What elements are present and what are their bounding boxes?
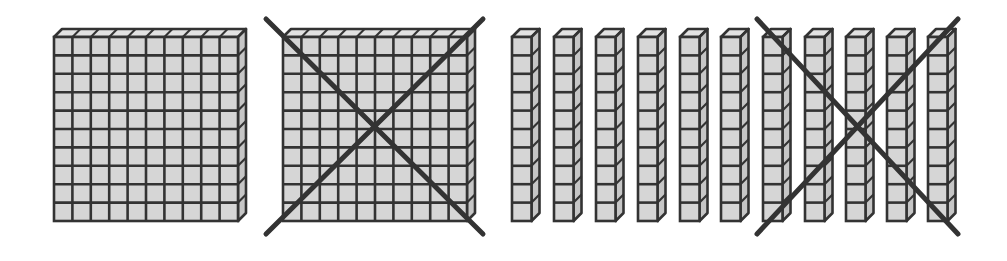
tens-rod	[512, 29, 540, 221]
base-ten-blocks-diagram: Base-ten blocks: 2 hundreds flats and 11…	[0, 0, 1007, 261]
tens-rods-group	[512, 29, 956, 221]
tens-rod	[805, 29, 833, 221]
blocks-canvas	[0, 0, 1007, 261]
hundreds-flats-group	[54, 29, 475, 221]
tens-rod	[887, 29, 915, 221]
tens-rod	[680, 29, 708, 221]
tens-rod	[554, 29, 582, 221]
tens-rod	[721, 29, 749, 221]
tens-rod	[928, 29, 956, 221]
hundreds-flat	[54, 29, 246, 221]
tens-rod	[638, 29, 666, 221]
tens-rod	[596, 29, 624, 221]
tens-rod	[763, 29, 791, 221]
